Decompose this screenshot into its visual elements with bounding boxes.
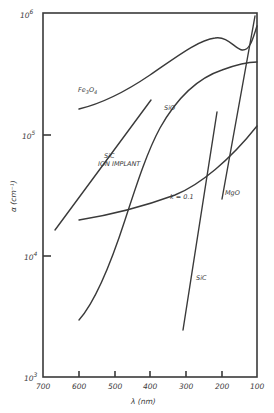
y-tick-label-1e6: 106 bbox=[20, 8, 34, 20]
x-tick-label-500: 500 bbox=[108, 382, 123, 391]
x-tick-label-200: 200 bbox=[215, 382, 230, 391]
y-tick-label-1e4: 104 bbox=[24, 250, 38, 262]
curve-k-0.1 bbox=[79, 126, 257, 220]
label-mgo: MgO bbox=[225, 189, 240, 197]
x-tick-label-600: 600 bbox=[72, 382, 87, 391]
y-axis-title: α (cm⁻¹) bbox=[9, 180, 18, 212]
x-tick-label-400: 400 bbox=[143, 382, 158, 391]
curve-mgo bbox=[222, 16, 255, 199]
label-fe3o4: Fe3O4 bbox=[78, 86, 97, 95]
y-axis: 106 105 104 103 α (cm⁻¹) bbox=[9, 8, 51, 383]
y-tick-label-1e5: 105 bbox=[22, 129, 36, 141]
x-tick-label-100: 100 bbox=[250, 382, 265, 391]
label-sic-ion-implant-line1: SiC bbox=[104, 152, 115, 160]
label-k-0.1: k = 0.1 bbox=[170, 193, 194, 201]
x-tick-label-700: 700 bbox=[36, 382, 51, 391]
x-axis-title: λ (nm) bbox=[130, 397, 156, 406]
chart-canvas: 106 105 104 103 α (cm⁻¹) 700 600 500 400… bbox=[0, 0, 274, 413]
curve-sic bbox=[183, 112, 217, 330]
label-sio: SiO bbox=[164, 104, 175, 112]
x-tick-label-300: 300 bbox=[179, 382, 194, 391]
label-sic-ion-implant-line2: ION IMPLANT bbox=[98, 160, 141, 168]
label-sic: SiC bbox=[196, 274, 207, 282]
